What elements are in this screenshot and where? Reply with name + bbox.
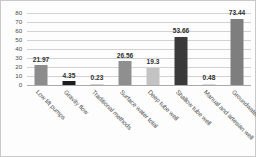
bar-value-label: 26.56 <box>117 53 134 60</box>
bar-value-label: 73.44 <box>229 10 246 17</box>
bar[interactable] <box>91 84 104 85</box>
bar-chart: 80706050403020100 21.974.350.2326.5619.3… <box>0 0 256 157</box>
bar[interactable] <box>175 37 188 85</box>
bar-value-label: 19.3 <box>147 59 160 66</box>
x-axis-label-slot: Surface water total <box>111 87 139 157</box>
x-axis-line <box>27 85 251 86</box>
x-axis-labels: Low lift pumpsGravity flowTraditional me… <box>27 87 251 157</box>
bar-slot: 26.56 <box>111 13 139 85</box>
x-axis-label-slot: Shallow tube well <box>167 87 195 157</box>
y-axis-tick-label: 80 <box>15 10 22 16</box>
bar-slot: 0.48 <box>195 13 223 85</box>
bar-slot: 19.3 <box>139 13 167 85</box>
x-axis-label-slot: Low lift pumps <box>27 87 55 157</box>
x-axis-label-slot: Manual and artesian well <box>195 87 223 157</box>
y-axis-tick-label: 60 <box>15 28 22 34</box>
x-axis-tick-label: Groundwater total <box>230 89 256 128</box>
bar-slot: 73.44 <box>223 13 251 85</box>
x-axis-label-slot: Gravity flow <box>55 87 83 157</box>
bar-value-label: 53.66 <box>173 28 190 35</box>
y-axis: 80706050403020100 <box>1 13 25 85</box>
bar-value-label: 21.97 <box>33 57 50 64</box>
bar[interactable] <box>63 81 76 85</box>
bar-value-label: 0.48 <box>203 75 216 82</box>
x-axis-label-slot: Traditional methods <box>83 87 111 157</box>
bar-slot: 53.66 <box>167 13 195 85</box>
bar-value-label: 4.35 <box>63 73 76 80</box>
plot-area: 21.974.350.2326.5619.353.660.4873.44 <box>27 13 251 85</box>
y-axis-tick-label: 70 <box>15 19 22 25</box>
y-axis-tick-label: 50 <box>15 37 22 43</box>
bar-series: 21.974.350.2326.5619.353.660.4873.44 <box>27 13 251 85</box>
y-axis-tick-label: 30 <box>15 55 22 61</box>
y-axis-tick-label: 10 <box>15 73 22 79</box>
bar-slot: 4.35 <box>55 13 83 85</box>
y-axis-tick-label: 20 <box>15 64 22 70</box>
x-axis-label-slot: Deep tube well <box>139 87 167 157</box>
bar[interactable] <box>231 19 244 85</box>
y-axis-tick-label: 0 <box>19 82 22 88</box>
bar-slot: 21.97 <box>27 13 55 85</box>
bar-value-label: 0.23 <box>91 75 104 82</box>
bar[interactable] <box>35 65 48 85</box>
x-axis-label-slot: Groundwater total <box>223 87 251 157</box>
bar[interactable] <box>119 61 132 85</box>
y-axis-tick-label: 40 <box>15 46 22 52</box>
bar-slot: 0.23 <box>83 13 111 85</box>
bar[interactable] <box>203 84 216 85</box>
bar[interactable] <box>147 68 160 85</box>
